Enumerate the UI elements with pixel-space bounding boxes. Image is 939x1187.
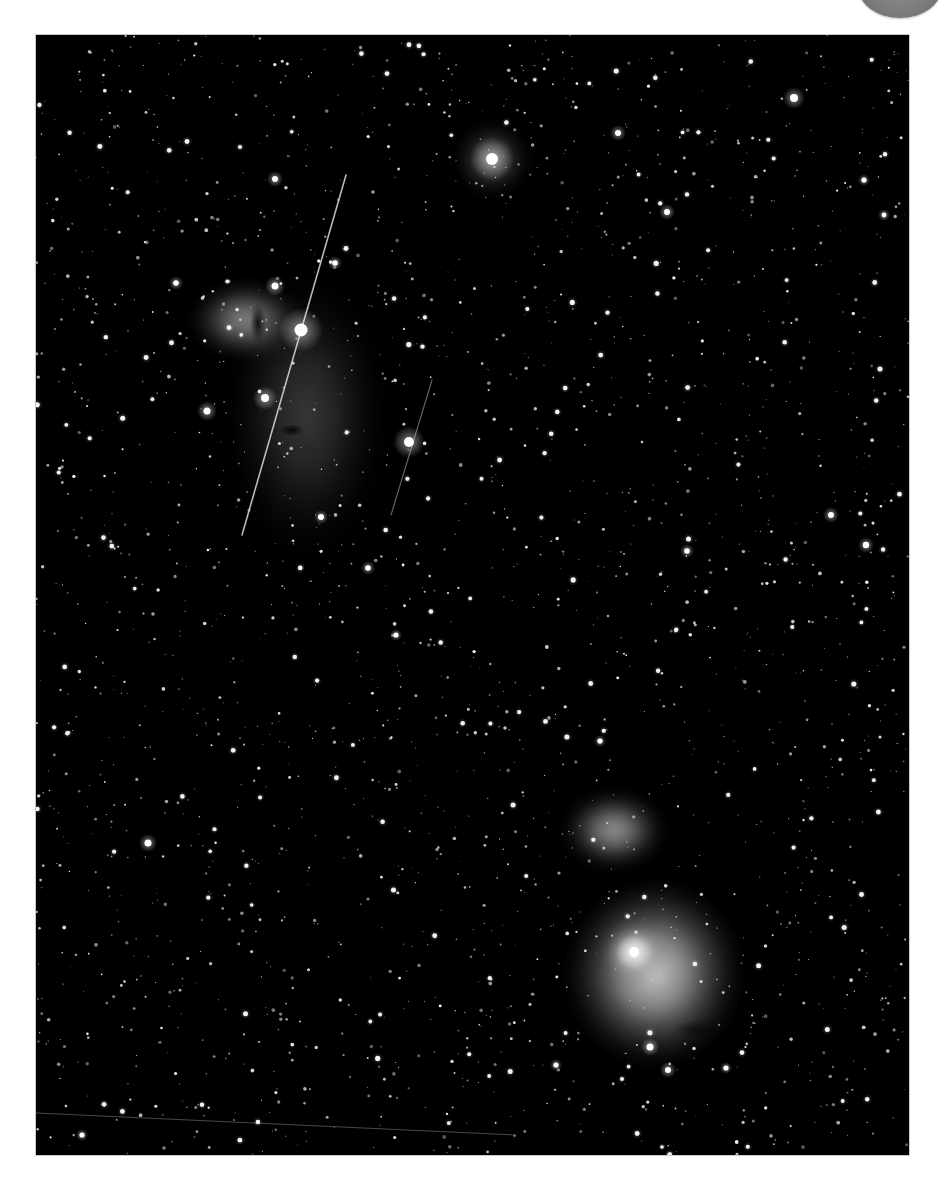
star-star-c14 bbox=[720, 1062, 732, 1074]
star-trapezium bbox=[616, 934, 652, 970]
star-star-c12 bbox=[328, 256, 342, 270]
star-star-c11 bbox=[314, 510, 328, 524]
star-star-c6 bbox=[823, 507, 839, 523]
star-star-c5 bbox=[858, 537, 874, 553]
horsehead-silhouette bbox=[280, 424, 304, 436]
star-star-c8 bbox=[361, 561, 375, 575]
star-star-c3 bbox=[659, 204, 675, 220]
star-star-c7 bbox=[680, 544, 694, 558]
star-sigma-ori bbox=[393, 426, 425, 458]
corner-badge bbox=[858, 0, 939, 18]
star-star-flame-3 bbox=[197, 401, 217, 421]
star-star-ne bbox=[783, 87, 805, 109]
star-star-c19 bbox=[878, 209, 890, 221]
star-star-c4 bbox=[139, 834, 157, 852]
star-star-c2 bbox=[610, 125, 626, 141]
astrophoto bbox=[36, 35, 909, 1155]
running-man-nebula bbox=[559, 788, 669, 872]
star-star-c16 bbox=[594, 735, 606, 747]
starfield bbox=[36, 35, 909, 1155]
star-star-c17 bbox=[390, 629, 402, 641]
star-star-flame-2 bbox=[253, 386, 277, 410]
star-alnilam-area bbox=[470, 137, 514, 181]
star-star-c1 bbox=[267, 171, 283, 187]
star-star-c10 bbox=[660, 1062, 676, 1078]
flame-dark-lane bbox=[250, 303, 266, 343]
star-star-c15 bbox=[550, 1059, 562, 1071]
orion-dark-lane bbox=[596, 868, 656, 892]
orion-fish-mouth bbox=[674, 1020, 718, 1040]
star-star-c20 bbox=[76, 1129, 88, 1141]
star-star-c13 bbox=[169, 276, 183, 290]
star-star-c9 bbox=[641, 1038, 659, 1056]
star-alnitak bbox=[279, 308, 323, 352]
star-star-flame-1 bbox=[265, 276, 285, 296]
star-star-c18 bbox=[858, 174, 870, 186]
